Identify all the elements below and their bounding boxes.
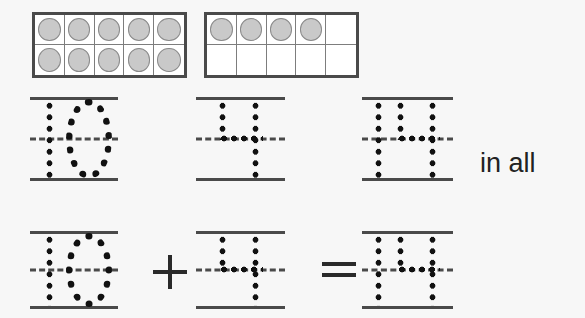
tenframe-cell (326, 15, 356, 45)
tenframe-cell (207, 15, 237, 45)
counter-empty (270, 48, 292, 71)
equals-bottom-bar (322, 273, 356, 277)
trace-ten-bottom[interactable] (30, 231, 118, 309)
counter-filled (68, 48, 90, 71)
tenframe-cell (124, 15, 154, 45)
rule-bottom-line (30, 178, 118, 181)
counter-empty (240, 48, 262, 71)
rule-top-line (196, 231, 285, 234)
trace-four-bottom[interactable] (196, 231, 285, 309)
trace-ten-top[interactable] (30, 97, 118, 181)
tenframe-ten (32, 12, 187, 78)
counter-filled (68, 18, 90, 41)
rule-bottom-line (362, 306, 453, 309)
counter-empty (329, 18, 352, 41)
trace-fourteen-top[interactable] (362, 97, 453, 181)
tenframe-cell (95, 15, 125, 45)
counter-filled (270, 18, 292, 41)
in-all-label: in all (480, 148, 536, 179)
trace-four-top[interactable] (196, 97, 285, 181)
tenframe-four (204, 12, 359, 78)
tenframe-cell (237, 45, 267, 75)
tenframe-cell (296, 15, 326, 45)
counter-empty (300, 48, 322, 71)
counter-filled (128, 48, 150, 71)
counter-filled (98, 18, 120, 41)
counter-filled (38, 48, 60, 71)
tenframe-cell (65, 15, 95, 45)
counter-filled (38, 18, 60, 41)
tenframe-cell (154, 15, 184, 45)
tenframe-cell (296, 45, 326, 75)
counter-filled (157, 18, 180, 41)
trace-fourteen-bottom[interactable] (362, 231, 453, 309)
rule-bottom-line (196, 178, 285, 181)
counter-filled (240, 18, 262, 41)
tenframe-cell (124, 45, 154, 75)
worksheet-canvas: in all (0, 0, 585, 318)
tenframe-cell (267, 15, 297, 45)
rule-top-line (30, 97, 118, 100)
counter-empty (329, 48, 352, 71)
plus-vertical-stroke (168, 255, 172, 289)
tenframe-cell (95, 45, 125, 75)
counter-filled (300, 18, 322, 41)
tenframe-cell (326, 45, 356, 75)
tenframe-cell (267, 45, 297, 75)
rule-top-line (196, 97, 285, 100)
rule-bottom-line (196, 306, 285, 309)
tenframe-cell (207, 45, 237, 75)
equals-top-bar (322, 262, 356, 266)
equals-operator (322, 262, 356, 280)
counter-filled (98, 48, 120, 71)
tenframe-cell (35, 45, 65, 75)
counter-filled (128, 18, 150, 41)
rule-bottom-line (362, 178, 453, 181)
tenframe-cell (65, 45, 95, 75)
counter-filled (210, 18, 232, 41)
tenframe-cell (35, 15, 65, 45)
counter-empty (210, 48, 232, 71)
rule-top-line (30, 231, 118, 234)
tenframe-cell (154, 45, 184, 75)
counter-filled (157, 48, 180, 71)
tenframe-cell (237, 15, 267, 45)
rule-bottom-line (30, 306, 118, 309)
plus-operator (153, 255, 187, 289)
